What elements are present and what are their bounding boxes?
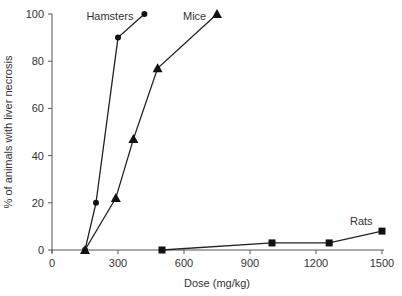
series-group: HamstersMiceRats	[80, 9, 386, 254]
square-marker	[379, 228, 386, 235]
x-tick-label: 0	[49, 257, 55, 269]
series-label: Hamsters	[86, 10, 134, 22]
square-marker	[269, 239, 276, 246]
axes	[52, 14, 384, 253]
y-tick-label: 60	[32, 102, 44, 114]
series-label: Mice	[183, 10, 206, 22]
circle-marker	[93, 200, 99, 206]
y-tick-label: 0	[38, 244, 44, 256]
axis-ticks: 030060090012001500020406080100	[26, 8, 395, 269]
square-marker	[159, 247, 166, 254]
y-tick-label: 100	[26, 8, 44, 20]
triangle-marker	[111, 193, 121, 202]
x-tick-label: 900	[241, 257, 259, 269]
series-hamsters: Hamsters	[82, 10, 147, 253]
y-tick-label: 20	[32, 197, 44, 209]
x-tick-label: 1500	[370, 257, 394, 269]
liver-necrosis-chart: 030060090012001500020406080100 HamstersM…	[0, 0, 402, 296]
y-axis-label: % of animals with liver necrosis	[2, 55, 14, 208]
series-label: Rats	[350, 215, 373, 227]
triangle-marker	[212, 9, 222, 18]
series-rats: Rats	[159, 215, 386, 253]
circle-marker	[141, 11, 147, 17]
x-tick-label: 1200	[304, 257, 328, 269]
y-tick-label: 80	[32, 55, 44, 67]
circle-marker	[115, 35, 121, 41]
x-axis-label: Dose (mg/kg)	[184, 277, 250, 289]
y-tick-label: 40	[32, 150, 44, 162]
x-tick-label: 600	[175, 257, 193, 269]
x-tick-label: 300	[109, 257, 127, 269]
square-marker	[326, 239, 333, 246]
triangle-marker	[128, 134, 138, 143]
series-mice: Mice	[80, 9, 222, 254]
